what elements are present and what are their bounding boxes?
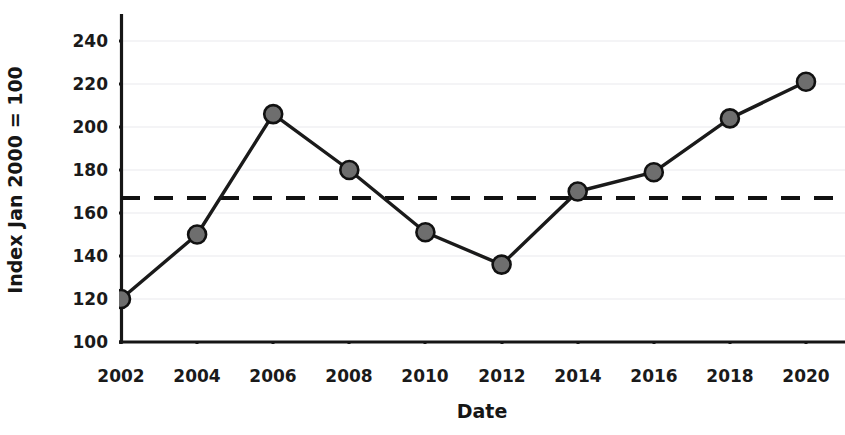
data-point-2014 (569, 183, 587, 201)
plot-area (119, 14, 845, 342)
x-tick-label: 2012 (478, 366, 525, 386)
data-line (121, 82, 806, 299)
data-point-2008 (340, 161, 358, 179)
x-tick-label: 2006 (249, 366, 296, 386)
data-point-2004 (188, 226, 206, 244)
x-tick-label: 2020 (782, 366, 829, 386)
x-tick-label: 2018 (706, 366, 753, 386)
data-point-2020 (797, 73, 815, 91)
x-tick-label: 2010 (401, 366, 448, 386)
data-point-2018 (721, 109, 739, 127)
grid-lines (121, 41, 845, 299)
data-point-2010 (416, 223, 434, 241)
x-tick-label: 2004 (173, 366, 220, 386)
data-point-2006 (264, 105, 282, 123)
data-point-2002 (119, 290, 130, 308)
data-point-2012 (493, 256, 511, 274)
axis-spines (119, 15, 845, 342)
data-point-2016 (645, 163, 663, 181)
x-axis-title: Date (119, 400, 845, 422)
line-chart: Index Jan 2000 = 100 100 120 140 160 180… (0, 0, 845, 435)
x-tick-label: 2016 (630, 366, 677, 386)
x-tick-label: 2014 (554, 366, 601, 386)
x-tick-label: 2008 (325, 366, 372, 386)
x-tick-label: 2002 (97, 366, 144, 386)
